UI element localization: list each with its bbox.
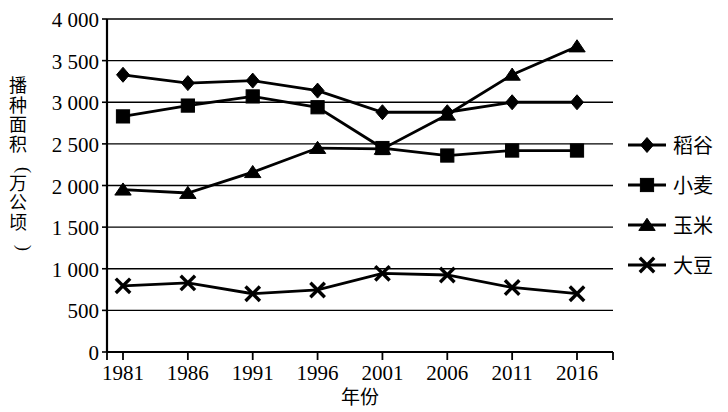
legend-label: 稻谷 bbox=[673, 135, 713, 157]
legend-item[interactable]: 大豆 bbox=[628, 255, 713, 277]
y-axis-tick-label: 1 500 bbox=[52, 216, 99, 240]
chart-legend: 稻谷小麦玉米大豆 bbox=[628, 135, 713, 277]
data-point-triangle-marker bbox=[569, 40, 585, 52]
y-axis-title: 播种面积(万公顷) bbox=[9, 76, 34, 251]
x-axis-ticks bbox=[107, 352, 613, 360]
data-series-group bbox=[115, 40, 585, 301]
y-axis-title-char: 播 bbox=[9, 76, 27, 96]
y-axis-tick-label: 1 000 bbox=[52, 258, 99, 282]
data-point-diamond-marker bbox=[311, 83, 324, 98]
data-point-square-marker bbox=[506, 144, 519, 157]
y-axis-tick-label: 4 000 bbox=[52, 8, 99, 32]
data-series bbox=[115, 40, 585, 199]
y-axis-title-char: 万 bbox=[9, 174, 27, 194]
data-point-square-marker bbox=[311, 101, 324, 114]
x-axis-tick-label: 1986 bbox=[167, 361, 209, 385]
data-point-square-marker bbox=[246, 90, 259, 103]
x-axis-tick-label: 1991 bbox=[232, 361, 274, 385]
y-axis-title-char: 公 bbox=[9, 193, 27, 213]
y-axis-tick-labels: 4 0003 5003 0002 5002 0001 5001 0005000 bbox=[52, 8, 99, 365]
data-point-square-marker bbox=[181, 99, 194, 112]
gridlines bbox=[102, 19, 613, 352]
legend-item[interactable]: 稻谷 bbox=[628, 135, 713, 157]
y-axis-title-char: 积 bbox=[9, 135, 27, 155]
data-point-square-marker bbox=[640, 178, 653, 191]
y-axis-title-char: ) bbox=[13, 245, 34, 251]
y-axis-tick-label: 3 000 bbox=[52, 91, 99, 115]
y-axis-title-char: ( bbox=[13, 167, 34, 173]
legend-label: 大豆 bbox=[673, 255, 713, 277]
data-point-diamond-marker bbox=[506, 95, 519, 110]
series-line bbox=[123, 46, 577, 193]
y-axis-tick-label: 0 bbox=[89, 341, 100, 365]
x-axis-tick-label: 1981 bbox=[102, 361, 144, 385]
x-axis-tick-label: 2006 bbox=[426, 361, 468, 385]
data-point-square-marker bbox=[116, 110, 129, 123]
y-axis-tick-label: 2 000 bbox=[52, 175, 99, 199]
data-point-diamond-marker bbox=[571, 95, 584, 110]
legend-item[interactable]: 玉米 bbox=[628, 215, 713, 237]
line-chart: 播种面积(万公顷) 4 0003 5003 0002 5002 0001 500… bbox=[0, 0, 728, 412]
x-axis-tick-label: 2016 bbox=[556, 361, 598, 385]
y-axis-title-char: 顷 bbox=[9, 213, 27, 233]
x-axis-tick-label: 1996 bbox=[297, 361, 339, 385]
y-axis-tick-label: 500 bbox=[68, 299, 100, 323]
data-point-triangle-marker bbox=[504, 68, 520, 80]
legend-item[interactable]: 小麦 bbox=[628, 175, 713, 197]
y-axis-title-char: 种 bbox=[9, 96, 27, 116]
x-axis-tick-labels: 19811986199119962001200620112016 bbox=[102, 361, 598, 385]
y-axis-title-char: 面 bbox=[9, 115, 27, 135]
x-axis-title: 年份 bbox=[341, 387, 379, 408]
data-point-square-marker bbox=[441, 149, 454, 162]
data-point-diamond-marker bbox=[246, 73, 259, 88]
data-point-diamond-marker bbox=[181, 76, 194, 91]
data-point-diamond-marker bbox=[641, 138, 654, 153]
x-axis-tick-label: 2011 bbox=[492, 361, 533, 385]
x-axis-tick-label: 2001 bbox=[361, 361, 403, 385]
data-point-square-marker bbox=[570, 144, 583, 157]
data-series bbox=[116, 266, 584, 301]
data-point-diamond-marker bbox=[376, 105, 389, 120]
y-axis-tick-label: 2 500 bbox=[52, 133, 99, 157]
data-point-diamond-marker bbox=[117, 67, 130, 82]
chart-figure: 播种面积(万公顷) 4 0003 5003 0002 5002 0001 500… bbox=[0, 0, 728, 412]
legend-label: 玉米 bbox=[673, 215, 713, 237]
legend-label: 小麦 bbox=[673, 175, 713, 197]
y-axis-tick-label: 3 500 bbox=[52, 50, 99, 74]
